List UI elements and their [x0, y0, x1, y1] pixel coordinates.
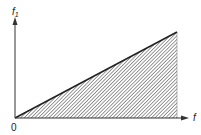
origin-label: 0 [11, 122, 17, 133]
diagram: f1 0 f [0, 0, 201, 135]
x-axis-arrow-icon [181, 116, 189, 121]
x-axis-label: f [193, 112, 197, 123]
y-axis-label: f1 [12, 6, 19, 18]
y-axis-arrow-icon [13, 17, 18, 25]
